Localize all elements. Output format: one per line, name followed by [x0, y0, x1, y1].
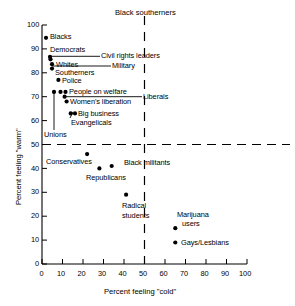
x-tick-40: 40 — [119, 270, 127, 277]
x-tick-0: 0 — [40, 270, 44, 277]
chart-canvas — [0, 0, 295, 306]
point-gays-lesbians — [173, 240, 177, 244]
y-tick-80: 80 — [31, 69, 39, 76]
point-people-on-welfare-b — [63, 90, 67, 94]
label-military: Military — [112, 62, 135, 69]
y-tick-70: 70 — [31, 93, 39, 100]
point-police — [56, 78, 60, 82]
y-tick-90: 90 — [31, 45, 39, 52]
label-marijuana-users-l2: users — [182, 220, 200, 227]
x-tick-50: 50 — [139, 270, 147, 277]
label-republicans: Republicans — [86, 174, 126, 181]
point-whites — [50, 62, 54, 66]
x-tick-100: 100 — [239, 270, 251, 277]
x-tick-70: 70 — [180, 270, 188, 277]
label-civil-rights-leaders: Civil rights leaders — [101, 52, 160, 59]
x-tick-60: 60 — [160, 270, 168, 277]
point-womens-liberation — [65, 99, 69, 103]
point-blacks — [44, 36, 48, 40]
point-southerners — [50, 67, 54, 71]
y-tick-30: 30 — [31, 188, 39, 195]
y-tick-60: 60 — [31, 117, 39, 124]
y-tick-20: 20 — [31, 212, 39, 219]
label-marijuana-users-l1: Marijuana — [177, 211, 209, 218]
y-axis-title: Percent feeling "warm" — [14, 128, 23, 205]
annotation-black-southerners: Black southerners — [115, 8, 176, 17]
y-tick-10: 10 — [31, 236, 39, 243]
point-republicans — [97, 166, 101, 170]
x-tick-20: 20 — [78, 270, 86, 277]
label-evangelicals: Evangelicals — [71, 119, 112, 126]
label-radical-students-l1: Radical — [122, 202, 146, 209]
label-radical-students-l2: students — [122, 212, 149, 219]
label-black-militants: Black militants — [124, 159, 170, 166]
scatter-chart: 100 90 80 70 60 50 40 30 20 10 0 0 10 20… — [0, 0, 295, 306]
point-radical-students — [124, 193, 128, 197]
x-tick-90: 90 — [221, 270, 229, 277]
label-unions: Unions — [44, 131, 67, 138]
point-big-business-b — [73, 111, 77, 115]
label-big-business: Big business — [78, 110, 119, 117]
label-democrats: Democrats — [50, 46, 85, 53]
x-tick-10: 10 — [57, 270, 65, 277]
point-people-on-welfare-a — [58, 90, 62, 94]
point-black-militants — [110, 164, 114, 168]
label-police: Police — [62, 77, 82, 84]
label-womens-liberation: Women's liberation — [70, 98, 131, 105]
y-tick-40: 40 — [31, 165, 39, 172]
label-whites: Whites — [56, 61, 78, 68]
point-civil-rights-leaders — [48, 57, 52, 61]
point-big-business-a — [69, 111, 73, 115]
point-unions — [52, 90, 56, 94]
point-liberals — [63, 95, 67, 99]
label-liberals: Liberals — [143, 93, 168, 100]
y-tick-50: 50 — [31, 141, 39, 148]
y-tick-0: 0 — [35, 260, 39, 267]
point-marijuana-users — [173, 226, 177, 230]
x-tick-30: 30 — [98, 270, 106, 277]
x-tick-80: 80 — [201, 270, 209, 277]
y-tick-100: 100 — [27, 21, 39, 28]
x-axis-title: Percent feeling "cold" — [104, 287, 176, 296]
label-blacks: Blacks — [50, 33, 71, 40]
label-people-on-welfare: People on welfare — [69, 88, 127, 95]
label-conservatives: Conservatives — [46, 158, 92, 165]
point-conservatives — [85, 152, 89, 156]
label-gays-lesbians: Gays/Lesbians — [181, 239, 229, 246]
